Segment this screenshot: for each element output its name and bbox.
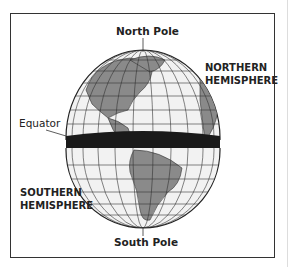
north-pole-label: North Pole: [116, 25, 179, 37]
southern-hemisphere-line2: HEMISPHERE: [20, 199, 93, 212]
equator-label: Equator: [19, 117, 60, 129]
southern-hemisphere-label: SOUTHERN HEMISPHERE: [20, 186, 93, 212]
northern-hemisphere-line2: HEMISPHERE: [205, 74, 278, 87]
equator-leader: [46, 130, 66, 136]
southern-hemisphere-line1: SOUTHERN: [20, 186, 93, 199]
northern-hemisphere-line1: NORTHERN: [205, 61, 278, 74]
south-pole-label: South Pole: [114, 236, 178, 248]
globe-illustration: [0, 0, 290, 267]
northern-hemisphere-label: NORTHERN HEMISPHERE: [205, 61, 278, 87]
